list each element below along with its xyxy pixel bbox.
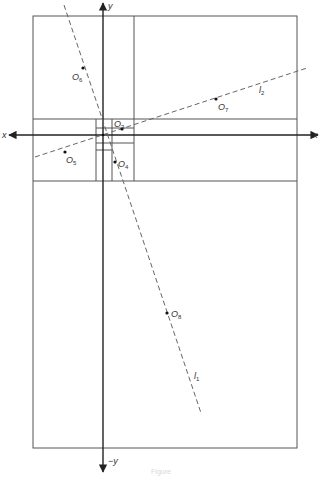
point-o6 <box>81 66 84 69</box>
point-o8 <box>165 311 168 314</box>
x-axis-negative-label: x <box>1 130 7 140</box>
point-origin-marker <box>102 134 105 137</box>
point-o4 <box>113 160 116 163</box>
label-o3: O3 <box>114 119 125 130</box>
label-o7: O7 <box>218 102 229 113</box>
y-axis-positive-label: y <box>107 1 113 11</box>
label-o8: O8 <box>171 309 182 320</box>
label-o4: O4 <box>118 159 129 170</box>
point-o5 <box>63 150 66 153</box>
label-l2: l2 <box>259 85 265 96</box>
figure-caption: Figure <box>0 468 322 475</box>
y-axis-negative-label: −y <box>108 456 118 466</box>
x-axis-positive-label: x <box>312 130 318 140</box>
point-o7 <box>214 97 217 100</box>
line-l1 <box>64 5 201 413</box>
coordinate-diagram: x x y −y O6 O7 O3 O5 O4 O8 l1 l2 <box>0 0 322 482</box>
label-o6: O6 <box>72 72 83 83</box>
label-l1: l1 <box>194 371 200 382</box>
label-o5: O5 <box>66 155 77 166</box>
